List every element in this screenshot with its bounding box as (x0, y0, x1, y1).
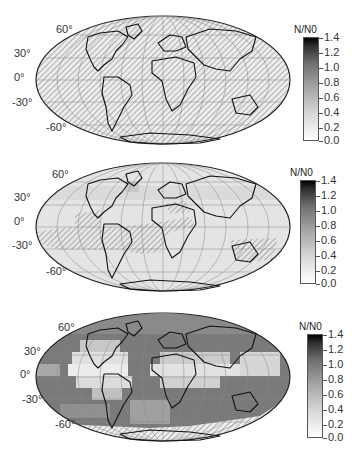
colorbar-tick: 0.4 (321, 249, 336, 261)
colorbar-tick: 1.4 (324, 31, 339, 43)
colorbar-tick: 1.2 (328, 343, 343, 355)
lat-label-minus30: -30° (22, 393, 42, 405)
colorbar-tick: 0.2 (324, 121, 339, 133)
colorbar-tick: 0.2 (328, 418, 343, 430)
colorbar-title: N/N0 (290, 167, 313, 178)
colorbar-tick: 0.8 (328, 373, 343, 385)
mollweide-map-bottom (0, 312, 352, 447)
colorbar (307, 334, 323, 438)
colorbar-tick: 0.8 (321, 219, 336, 231)
lat-label-minus60: -60° (46, 121, 66, 133)
colorbar (303, 37, 319, 141)
colorbar-tick: 0.6 (324, 91, 339, 103)
colorbar-tick: 0.4 (324, 106, 339, 118)
colorbar-tick: 1.0 (328, 358, 343, 370)
colorbar-title: N/N0 (299, 321, 322, 332)
map-panel-top: 60° 30° 0° -30° -60° N/N0 1.4 1.2 1.0 0.… (0, 15, 352, 165)
colorbar-tick: 0.4 (328, 403, 343, 415)
colorbar-title: N/N0 (294, 24, 317, 35)
colorbar-tick: 1.4 (321, 174, 336, 186)
colorbar-tick: 0.0 (321, 277, 336, 289)
colorbar-tick: 0.2 (321, 264, 336, 276)
lat-label-minus60: -60° (46, 265, 66, 277)
lat-label-0: 0° (14, 215, 25, 227)
lat-label-minus30: -30° (12, 239, 32, 251)
lat-label-0: 0° (20, 368, 31, 380)
lat-label-30: 30° (14, 191, 31, 203)
map-panel-bottom: 60° 30° 0° -30° -60° N/N0 1.4 1.2 1.0 0.… (0, 312, 352, 452)
map-panel-middle: 60° 30° 0° -30° -60° N/N0 1.4 1.2 1.0 0.… (0, 162, 352, 312)
colorbar-tick: 1.0 (321, 204, 336, 216)
colorbar-tick: 1.2 (324, 46, 339, 58)
colorbar-tick: 0.8 (324, 76, 339, 88)
colorbar-tick: 1.2 (321, 189, 336, 201)
lat-label-60: 60° (56, 23, 73, 35)
colorbar-tick: 1.4 (328, 328, 343, 340)
lat-label-60: 60° (58, 321, 75, 333)
lat-label-60: 60° (52, 168, 69, 180)
lat-label-30: 30° (24, 345, 41, 357)
colorbar-tick: 0.6 (328, 388, 343, 400)
colorbar-tick: 0.6 (321, 234, 336, 246)
colorbar (300, 180, 316, 284)
lat-label-minus30: -30° (12, 96, 32, 108)
colorbar-tick: 0.0 (324, 134, 339, 146)
lat-label-0: 0° (14, 71, 25, 83)
lat-label-minus60: -60° (55, 418, 75, 430)
colorbar-tick: 1.0 (324, 61, 339, 73)
lat-label-30: 30° (14, 47, 31, 59)
colorbar-tick: 0.0 (328, 431, 343, 443)
